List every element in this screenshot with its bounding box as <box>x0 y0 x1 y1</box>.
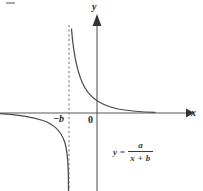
equation-numerator: a <box>135 140 146 151</box>
equation-caption: y = a x + b <box>113 140 153 163</box>
equation-equals-sign: = <box>120 147 125 157</box>
graph-canvas <box>0 0 203 191</box>
y-axis-label: y <box>92 2 96 12</box>
y-axis-arrowhead <box>93 14 102 26</box>
minus-b-tick-label: −b <box>53 114 64 124</box>
equation-lhs: y <box>113 147 117 157</box>
equation-denominator: x + b <box>128 152 153 163</box>
x-axis-label: x <box>191 108 196 118</box>
hyperbola-upper-right-branch <box>72 29 156 112</box>
function-graph-figure: y x 0 −b y = a x + b <box>0 0 203 191</box>
equation-fraction: a x + b <box>128 140 153 163</box>
hyperbola-lower-left-branch <box>0 114 69 191</box>
origin-label: 0 <box>88 115 93 125</box>
